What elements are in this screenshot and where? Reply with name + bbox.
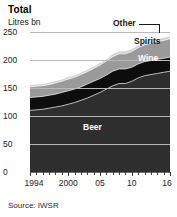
x-tick-label: 10	[127, 178, 136, 188]
x-tick	[100, 172, 101, 176]
x-tick	[132, 172, 133, 176]
x-tick	[49, 172, 50, 175]
series-label-other: Other	[113, 18, 136, 28]
chart-root: Total Litres bn 050100150200250 19942000…	[0, 0, 177, 217]
chart-title: Total	[8, 4, 32, 15]
y-tick-label: 200	[3, 55, 17, 65]
x-tick	[145, 172, 146, 175]
other-leader-line-vertical	[159, 24, 160, 33]
x-tick	[94, 172, 95, 175]
gridline	[30, 116, 170, 117]
x-tick	[81, 172, 82, 175]
x-tick-label: 2000	[59, 178, 78, 188]
x-tick	[30, 172, 31, 176]
y-tick-label: 150	[3, 83, 17, 93]
y-axis-labels: 050100150200250	[0, 32, 28, 172]
x-tick	[125, 172, 126, 175]
x-tick	[62, 172, 63, 175]
gridline	[30, 32, 170, 33]
x-tick	[164, 172, 165, 175]
x-tick	[151, 172, 152, 175]
y-tick-label: 50	[3, 139, 12, 149]
x-tick	[170, 172, 171, 176]
gridline	[30, 144, 170, 145]
x-tick	[55, 172, 56, 175]
chart-source: Source: IWSR	[8, 201, 59, 210]
series-label-beer: Beer	[83, 122, 102, 132]
y-tick-label: 250	[3, 27, 17, 37]
x-tick	[157, 172, 158, 175]
x-tick	[138, 172, 139, 175]
x-tick	[119, 172, 120, 175]
x-tick	[68, 172, 69, 176]
x-tick	[106, 172, 107, 175]
series-label-wine: Wine	[138, 53, 158, 63]
x-tick-label: 16	[162, 178, 171, 188]
y-tick-label: 100	[3, 111, 17, 121]
series-label-spirits: Spirits	[134, 36, 160, 46]
y-tick-label: 0	[3, 167, 8, 177]
x-tick	[75, 172, 76, 175]
x-tick-label: 1994	[25, 178, 44, 188]
x-tick	[87, 172, 88, 175]
x-tick	[36, 172, 37, 175]
x-axis-labels: 19942000051016	[0, 178, 177, 190]
x-tick	[43, 172, 44, 175]
x-axis-ticks	[30, 172, 170, 177]
x-tick	[113, 172, 114, 175]
gridline	[30, 88, 170, 89]
other-leader-line-horizontal	[139, 24, 160, 25]
x-tick-label: 05	[95, 178, 104, 188]
chart-subtitle: Litres bn	[8, 17, 41, 27]
